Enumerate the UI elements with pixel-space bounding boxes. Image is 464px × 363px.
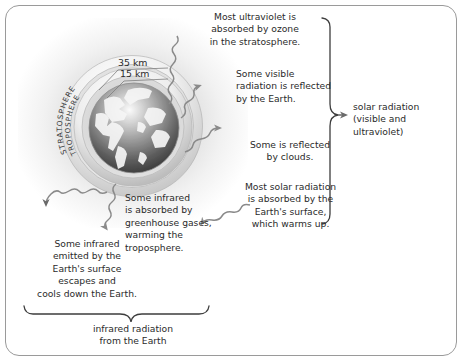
callout-infrared-escapes: Some infrared emitted by the Earth's sur… <box>18 238 156 300</box>
callout-reflected-clouds: Some is reflected by clouds. <box>241 139 339 164</box>
label-solar-radiation: solar radiation (visible and ultraviolet… <box>353 101 459 138</box>
label-infrared-radiation: infrared radiation from the Earth <box>78 323 188 348</box>
callout-absorbed-surface: Most solar radiation is absorbed by the … <box>232 181 349 231</box>
altitude-inner-label: 15 km <box>120 68 149 80</box>
callout-visible-reflected: Some visible radiation is reflected by t… <box>236 68 348 105</box>
callout-ultraviolet: Most ultraviolet is absorbed by ozone in… <box>193 11 317 48</box>
diagram-canvas: STRATOSPHERE TROPOSPHERE 35 km 15 km <box>0 0 464 363</box>
earth-globe-graphic: STRATOSPHERE TROPOSPHERE 35 km 15 km <box>52 48 212 203</box>
